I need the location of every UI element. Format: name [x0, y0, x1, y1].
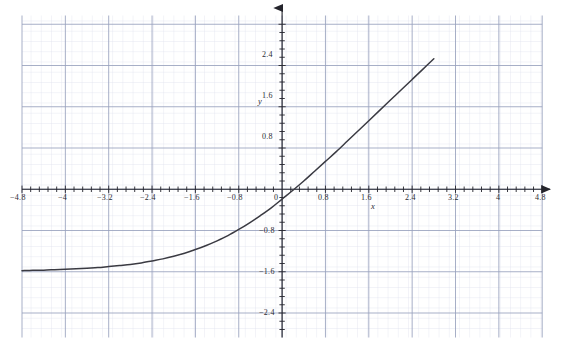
x-tick-label--4: −4 — [58, 193, 67, 202]
x-tick-label-4: 4 — [496, 193, 500, 202]
y-tick-label-1.6: 1.6 — [262, 91, 273, 100]
y-tick-label--0.8: −0.8 — [259, 226, 275, 235]
x-tick-label--1.6: −1.6 — [184, 193, 200, 202]
x-tick-label--3.2: −3.2 — [97, 193, 113, 202]
coordinate-plane — [0, 0, 564, 351]
y-tick-label--1.6: −1.6 — [259, 267, 275, 276]
x-tick-label--4.8: −4.8 — [10, 193, 26, 202]
y-tick-label--2.4: −2.4 — [259, 308, 275, 317]
x-tick-label-2.4: 2.4 — [405, 193, 416, 202]
x-tick-label-3.2: 3.2 — [448, 193, 459, 202]
y-tick-label-2.4: 2.4 — [262, 50, 273, 59]
y-axis-label: y — [258, 96, 262, 106]
x-tick-label--0.8: −0.8 — [227, 193, 243, 202]
y-axis — [279, 8, 286, 338]
x-axis-label: x — [371, 201, 375, 211]
x-tick-label-0.8: 0.8 — [318, 193, 329, 202]
x-tick-label-0: 0 — [274, 193, 278, 202]
x-tick-label-4.8: 4.8 — [535, 193, 546, 202]
y-tick-label-0.8: 0.8 — [262, 132, 273, 141]
graph-figure: −4.8 −4 −3.2 −2.4 −1.6 −0.8 0 0.8 1.6 2.… — [0, 0, 564, 351]
x-tick-label--2.4: −2.4 — [140, 193, 156, 202]
